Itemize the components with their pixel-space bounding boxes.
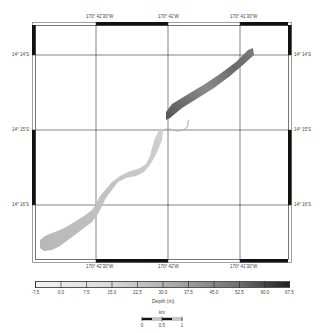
scale-bar-label: 0 — [141, 324, 144, 329]
scale-bar-label: 0.5 — [159, 324, 165, 329]
scale-bar-label: 1 — [181, 324, 184, 329]
scale-bar-unit: km — [159, 311, 165, 316]
scale-bar — [0, 0, 322, 333]
